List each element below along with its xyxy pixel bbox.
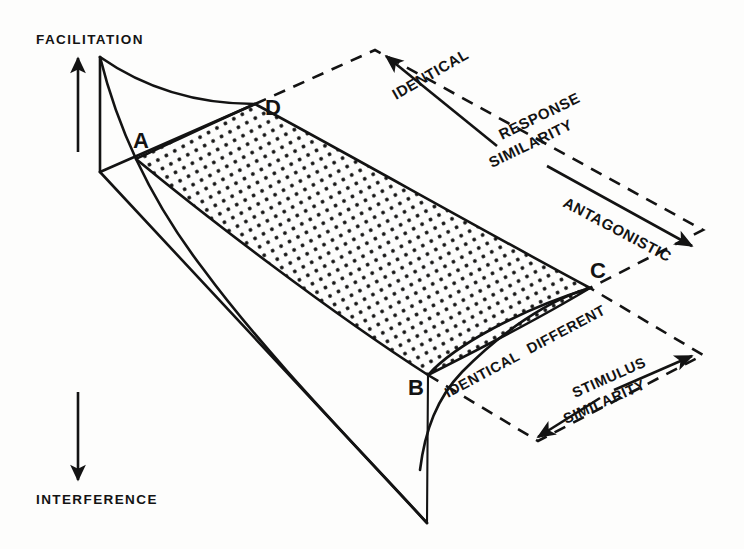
vertex-label-A: A — [133, 128, 149, 153]
transfer-surface-diagram: FACILITATION INTERFERENCE IDENTICAL RESP… — [0, 0, 744, 549]
axis-label-facilitation: FACILITATION — [36, 32, 144, 47]
vertex-label-C: C — [590, 258, 606, 283]
vertex-label-D: D — [265, 95, 281, 120]
response-low-label: IDENTICAL — [389, 45, 471, 102]
vertex-label-B: B — [408, 375, 424, 400]
axis-label-interference: INTERFERENCE — [36, 492, 158, 507]
figure-canvas: FACILITATION INTERFERENCE IDENTICAL RESP… — [0, 0, 744, 549]
